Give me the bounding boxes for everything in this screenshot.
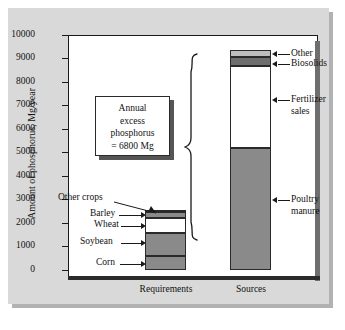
arrow-corn-icon	[141, 261, 146, 267]
y-tick-label-7000: 7000	[16, 100, 35, 109]
leader-line-other	[278, 54, 290, 55]
x-category-label-requirements: Requirements	[126, 284, 206, 294]
callout-barley: Barley	[90, 208, 115, 219]
leader-line-wheat	[121, 226, 143, 227]
arrow-soybean-icon	[141, 240, 146, 246]
y-tick-label-9000: 9000	[16, 53, 35, 62]
excess-line-3: phosphorus	[96, 127, 169, 140]
arrow-poultry-manure-icon	[272, 197, 277, 203]
bar-segment-biosolids[interactable]	[230, 57, 271, 66]
leader-line-poultry-manure	[278, 200, 290, 201]
bar-segment-other[interactable]	[230, 50, 271, 57]
x-axis-line	[68, 276, 320, 280]
arrow-wheat-icon	[141, 223, 146, 229]
leader-line-corn	[120, 264, 143, 265]
y-tick-label-0: 0	[30, 265, 35, 274]
callout-fertilizer-sales-line1: Fertilizer	[291, 94, 326, 105]
callout-soybean: Soybean	[80, 236, 113, 247]
y-tick-label-1000: 1000	[16, 241, 35, 250]
callout-poultry-manure-line1: Poultry	[291, 194, 319, 205]
excess-range-brace	[184, 52, 200, 242]
callout-corn: Corn	[96, 257, 115, 268]
arrow-other-icon	[272, 51, 277, 57]
leader-line-barley	[119, 215, 143, 216]
callout-fertilizer-sales-line2: sales	[291, 106, 309, 117]
leader-line-other-crops	[114, 200, 166, 216]
y-tick-label-10000: 10000	[11, 30, 35, 39]
leader-line-soybean	[121, 243, 143, 244]
y-tick-label-4000: 4000	[16, 171, 35, 180]
leader-line-fertilizer-sales	[278, 100, 290, 101]
y-tick-label-8000: 8000	[16, 77, 35, 86]
plot-drop-shadow	[315, 41, 320, 281]
arrow-fertilizer-sales-icon	[272, 97, 277, 103]
figure-frame: Amount of phosphorus, Mg/year 10000 9000…	[8, 8, 329, 304]
excess-line-4: = 6800 Mg	[96, 140, 169, 153]
excess-line-1: Annual	[96, 102, 169, 115]
arrow-barley-icon	[141, 212, 146, 218]
callout-wheat: Wheat	[94, 219, 119, 230]
bar-segment-soybean[interactable]	[145, 233, 186, 256]
callout-other-crops: Other crops	[58, 192, 103, 203]
leader-line-biosolids	[278, 64, 290, 65]
y-tick-label-5000: 5000	[16, 147, 35, 156]
x-category-label-sources: Sources	[216, 284, 286, 294]
bar-segment-wheat[interactable]	[145, 218, 186, 233]
bar-segment-poultry-manure[interactable]	[230, 148, 271, 270]
excess-line-2: excess	[96, 115, 169, 128]
y-tick-label-3000: 3000	[16, 194, 35, 203]
annual-excess-box: Annual excess phosphorus = 6800 Mg	[95, 96, 170, 156]
y-tick-label-2000: 2000	[16, 218, 35, 227]
bar-segment-fertilizer-sales[interactable]	[230, 66, 271, 148]
y-tick-label-6000: 6000	[16, 124, 35, 133]
bar-segment-corn[interactable]	[145, 256, 186, 270]
callout-biosolids: Biosolids	[291, 58, 327, 69]
callout-poultry-manure-line2: manure	[291, 206, 320, 217]
arrow-biosolids-icon	[272, 61, 277, 67]
